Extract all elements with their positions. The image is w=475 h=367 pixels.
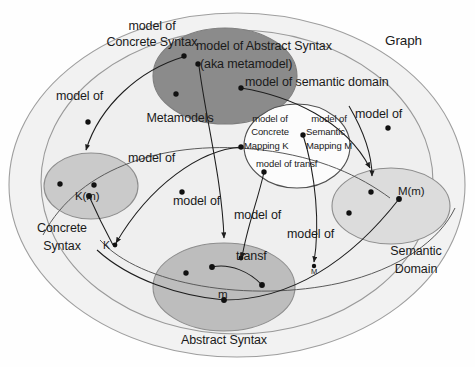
element-label-mm: M(m) xyxy=(398,185,424,197)
diagram-svg xyxy=(0,0,475,367)
dot-concrete-mapping-k xyxy=(238,144,243,149)
label-model-of-concrete-syntax-line2: Concrete Syntax xyxy=(107,36,198,49)
element-label-m: m xyxy=(218,288,227,300)
label-model-of-concrete-mapping-line2: Concrete xyxy=(251,127,289,137)
dot-sd-2 xyxy=(346,210,351,215)
dot-model-of-transf xyxy=(261,169,266,174)
label-model-of-semantic-domain: model of semantic domain xyxy=(245,76,389,89)
label-model-of-mid-lower: model of xyxy=(173,195,220,208)
diagram-canvas: Graph model of Concrete Syntax model of … xyxy=(0,0,475,367)
region-abstract-syntax xyxy=(153,243,295,331)
element-label-m-mapping: M xyxy=(311,268,317,276)
region-label-metamodels: Metamodels xyxy=(146,112,213,125)
region-concrete-syntax xyxy=(44,153,138,219)
region-label-abstract-syntax: Abstract Syntax xyxy=(181,334,267,347)
label-model-of-left: model of xyxy=(56,90,103,103)
label-model-of-abstract-syntax-line2: (aka metamodel) xyxy=(200,58,292,71)
element-label-km: K(m) xyxy=(75,190,100,202)
label-model-of-concrete-syntax-line1: model of xyxy=(128,20,175,33)
label-model-of-abstract-syntax-line1: model of Abstract Syntax xyxy=(196,40,332,53)
label-model-of-right-upper: model of xyxy=(355,108,402,121)
dot-metamodels-misc xyxy=(173,91,178,96)
element-label-k: K xyxy=(103,240,110,251)
region-label-semantic-domain-line1: Semantic xyxy=(390,245,441,258)
dot-metamodel-concrete xyxy=(181,53,186,58)
dot-graph-left xyxy=(85,119,90,124)
region-label-semantic-domain-line2: Domain xyxy=(395,263,437,276)
dot-cs-2 xyxy=(91,182,96,187)
label-model-of-semantic-mapping-line1: model of xyxy=(311,114,347,124)
dot-graph-right xyxy=(385,125,390,130)
dot-as-2 xyxy=(209,264,215,270)
region-semantic-domain xyxy=(332,168,450,244)
label-model-of-transf: model of transf xyxy=(256,159,317,169)
label-model-of-concrete-mapping-line1: model of xyxy=(252,114,288,124)
dot-semantic-mapping-m xyxy=(300,132,305,137)
label-model-of-right-lower: model of xyxy=(287,228,334,241)
element-label-transf: transf xyxy=(236,250,267,263)
region-label-concrete-syntax-line2: Syntax xyxy=(43,240,81,253)
label-model-of-mid-upper: model of xyxy=(128,152,175,165)
dot-k xyxy=(113,243,118,248)
label-model-of-transf-arrow: model of xyxy=(234,209,281,222)
dot-semantic-domain-model xyxy=(238,85,243,90)
label-model-of-concrete-mapping-line3: Mapping K xyxy=(244,141,289,151)
dot-cs-1 xyxy=(57,181,62,186)
region-label-concrete-syntax-line1: Concrete xyxy=(37,222,87,235)
diagram-title: Graph xyxy=(385,34,422,48)
label-model-of-semantic-mapping-line2: Semantic xyxy=(306,127,345,137)
dot-sd-1 xyxy=(368,189,373,194)
dot-as-1 xyxy=(183,270,188,275)
label-model-of-semantic-mapping-line3: Mapping M xyxy=(306,141,352,151)
dot-as-3 xyxy=(259,282,265,288)
